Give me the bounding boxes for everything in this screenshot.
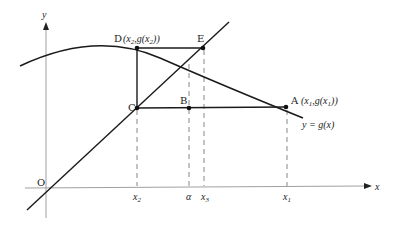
point-A (284, 105, 289, 110)
curve-label: y = g(x) (301, 119, 335, 131)
point-D-coords: (x2,g(x2)) (123, 33, 160, 46)
tick-x1: x1 (282, 191, 291, 204)
point-A-label: A (290, 95, 299, 106)
tick-x3: x3 (200, 191, 209, 204)
point-B-label: B (180, 95, 187, 106)
point-D (135, 46, 140, 51)
x-axis-label: x (374, 181, 380, 192)
point-E-label: E (197, 33, 204, 44)
point-A-coords: (x1,g(x1)) (301, 95, 338, 108)
tick-x2: x2 (132, 191, 141, 204)
x-axis-arrow-icon (364, 183, 372, 189)
fixed-point-iteration-diagram: y x O D (x2,g(x2)) E C B A (x1,g(x1)) y … (0, 0, 395, 228)
projection-lines (137, 50, 287, 186)
origin-label: O (37, 177, 45, 188)
segment-CA (137, 107, 287, 108)
y-axis-arrow-icon (43, 22, 49, 30)
point-B (187, 106, 192, 111)
line-y-equals-x (27, 22, 229, 210)
point-C-label: C (128, 102, 136, 113)
point-E (201, 46, 206, 51)
tick-alpha: α (186, 191, 192, 202)
x-axis (25, 186, 366, 188)
y-axis-label: y (41, 9, 47, 20)
point-D-label: D (114, 33, 122, 44)
